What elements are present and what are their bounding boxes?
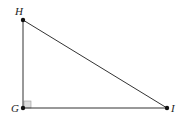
label-g: G xyxy=(11,102,19,114)
vertex-h xyxy=(21,18,25,22)
label-h: H xyxy=(14,5,24,17)
triangle-diagram: H G I xyxy=(0,0,182,120)
side-hi xyxy=(23,20,167,108)
vertex-g xyxy=(21,106,25,110)
label-i: I xyxy=(170,102,176,114)
vertex-i xyxy=(165,106,169,110)
right-angle-marker xyxy=(24,101,31,108)
